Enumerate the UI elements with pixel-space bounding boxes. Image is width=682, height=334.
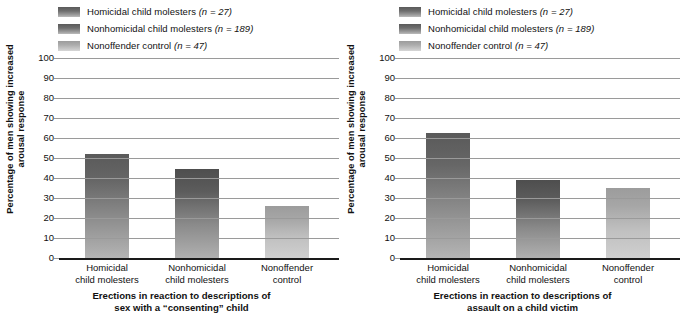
y-tick-mark <box>395 118 400 119</box>
y-axis-ticks-left: 1009080706050403020100 <box>24 58 54 258</box>
y-tick-label: 0 <box>24 253 54 263</box>
y-tick-label: 10 <box>24 233 54 243</box>
bar <box>265 206 309 258</box>
x-axis-labels-left: Homicidalchild molestersNonhomicidalchil… <box>59 262 339 290</box>
y-tick-mark <box>395 198 400 199</box>
y-tick-mark <box>54 78 59 79</box>
y-tick-mark <box>395 258 400 259</box>
legend-label-nonhomicidal-main: Nonhomicidal child molesters <box>428 23 553 34</box>
y-tick-label: 100 <box>24 53 54 63</box>
y-tick-label: 100 <box>365 53 395 63</box>
gridline <box>59 158 339 159</box>
y-tick-mark <box>54 258 59 259</box>
gridline <box>59 218 339 219</box>
x-axis-category-label-line: child molesters <box>488 274 588 286</box>
x-axis-category-label: Nonhomicidalchild molesters <box>147 262 247 285</box>
gridline <box>400 58 680 59</box>
legend-label-homicidal-main: Homicidal child molesters <box>428 6 537 17</box>
y-tick-label: 50 <box>365 153 395 163</box>
y-axis-ticks-right: 1009080706050403020100 <box>365 58 395 258</box>
y-tick-mark <box>395 238 400 239</box>
y-tick-mark <box>54 158 59 159</box>
y-tick-mark <box>395 138 400 139</box>
gridline <box>59 118 339 119</box>
x-axis-category-label: Nonhomicidalchild molesters <box>488 262 588 285</box>
x-axis-category-label: Nonoffendercontrol <box>578 262 678 285</box>
y-tick-label: 0 <box>365 253 395 263</box>
gridline <box>59 198 339 199</box>
legend-label-nonoffender-main: Nonoffender control <box>87 40 171 51</box>
x-axis-category-label-line: Homicidal <box>398 262 498 274</box>
y-tick-mark <box>54 118 59 119</box>
plot-area-left: Percentage of men showing increased arou… <box>0 58 341 270</box>
legend-label-nonoffender-main: Nonoffender control <box>428 40 512 51</box>
x-axis-category-label-line: control <box>237 274 337 286</box>
y-tick-label: 90 <box>24 73 54 83</box>
x-axis-category-label: Nonoffendercontrol <box>237 262 337 285</box>
y-tick-label: 40 <box>24 173 54 183</box>
y-tick-mark <box>54 98 59 99</box>
legend-label-nonoffender-n: (n = 47) <box>174 40 207 51</box>
gridline <box>400 198 680 199</box>
legend-label-nonoffender-n: (n = 47) <box>515 40 548 51</box>
y-tick-mark <box>54 198 59 199</box>
legend-label-nonhomicidal-n: (n = 189) <box>556 23 595 34</box>
legend-item-homicidal: Homicidal child molesters (n = 27) <box>399 4 674 19</box>
y-tick-mark <box>395 178 400 179</box>
y-tick-mark <box>54 58 59 59</box>
y-tick-mark <box>54 238 59 239</box>
chart-title-right-line2: assault on a child victim <box>369 302 676 314</box>
y-tick-mark <box>395 78 400 79</box>
x-axis-category-label-line: Nonoffender <box>578 262 678 274</box>
gridline <box>59 98 339 99</box>
bar <box>516 180 560 258</box>
chart-title-right: Erections in reaction to descriptions of… <box>369 290 676 313</box>
y-tick-label: 90 <box>365 73 395 83</box>
chart-title-left-line2: sex with a “consenting” child <box>28 302 335 314</box>
legend-swatch-nonhomicidal <box>58 24 80 34</box>
y-tick-label: 60 <box>24 133 54 143</box>
x-axis-category-label-line: Nonhomicidal <box>488 262 588 274</box>
x-axis-category-label-line: Nonoffender <box>237 262 337 274</box>
axis-baseline <box>59 258 339 260</box>
y-tick-label: 30 <box>365 193 395 203</box>
gridline <box>59 138 339 139</box>
y-tick-mark <box>395 158 400 159</box>
chart-title-left: Erections in reaction to descriptions of… <box>28 290 335 313</box>
gridline <box>400 238 680 239</box>
chart-panel-right: Homicidal child molesters (n = 27) Nonho… <box>341 0 682 334</box>
x-axis-category-label-line: control <box>578 274 678 286</box>
y-tick-label: 70 <box>365 113 395 123</box>
gridline <box>59 58 339 59</box>
y-tick-mark <box>54 178 59 179</box>
gridline <box>400 158 680 159</box>
y-tick-mark <box>54 138 59 139</box>
y-tick-label: 80 <box>24 93 54 103</box>
gridline <box>59 78 339 79</box>
chart-title-right-line1: Erections in reaction to descriptions of <box>369 290 676 302</box>
bar <box>85 154 129 258</box>
gridline <box>400 78 680 79</box>
legend-right: Homicidal child molesters (n = 27) Nonho… <box>399 4 674 55</box>
y-tick-label: 10 <box>365 233 395 243</box>
y-tick-mark <box>54 218 59 219</box>
y-tick-label: 60 <box>365 133 395 143</box>
legend-label-nonhomicidal-main: Nonhomicidal child molesters <box>87 23 212 34</box>
x-axis-category-label-line: Nonhomicidal <box>147 262 247 274</box>
legend-label-homicidal-n: (n = 27) <box>540 6 573 17</box>
y-axis-title-right-line1: Percentage of men showing increased <box>346 29 357 229</box>
plot-area-right: Percentage of men showing increased arou… <box>341 58 682 270</box>
gridline <box>400 138 680 139</box>
legend-label-nonhomicidal: Nonhomicidal child molesters (n = 189) <box>428 23 594 34</box>
y-tick-label: 20 <box>24 213 54 223</box>
y-tick-label: 30 <box>24 193 54 203</box>
gridline <box>400 98 680 99</box>
legend-item-nonoffender: Nonoffender control (n = 47) <box>399 38 674 53</box>
y-tick-label: 40 <box>365 173 395 183</box>
y-tick-label: 50 <box>24 153 54 163</box>
legend-item-homicidal: Homicidal child molesters (n = 27) <box>58 4 333 19</box>
gridline <box>59 178 339 179</box>
y-axis-title-left-line1: Percentage of men showing increased <box>5 29 16 229</box>
legend-label-nonoffender: Nonoffender control (n = 47) <box>87 40 207 51</box>
legend-swatch-nonoffender <box>58 41 80 51</box>
